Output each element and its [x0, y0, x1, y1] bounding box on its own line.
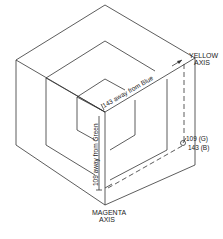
- point-b-label: 143 (B): [188, 144, 209, 152]
- dim-green-label: 109 away from Green: [92, 123, 100, 186]
- point-g-label: 109 (G): [186, 135, 208, 143]
- middle-cube: [46, 41, 167, 180]
- color-cube-diagram: YELLOW AXIS MAGENTA AXIS 143 away from B…: [0, 0, 223, 239]
- dim-blue-label: 143 away from Blue: [101, 74, 155, 110]
- yellow-axis-label: YELLOW: [189, 52, 219, 59]
- magenta-axis-label-2: AXIS: [99, 216, 115, 223]
- magenta-axis-label: MAGENTA: [92, 209, 126, 216]
- yellow-axis-label-2: AXIS: [194, 59, 210, 66]
